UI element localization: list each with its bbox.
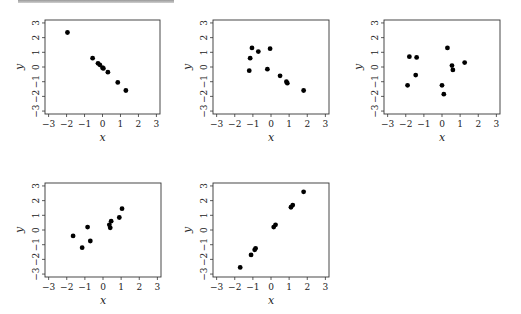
y-tick-label: −3 — [31, 104, 41, 118]
y-tick-label: 3 — [31, 20, 41, 26]
y-tick-label: 2 — [370, 35, 380, 41]
y-tick-label: 2 — [31, 198, 41, 204]
plot-frame — [213, 183, 329, 277]
x-tick-label: 2 — [304, 282, 310, 292]
y-tick-label: −2 — [199, 253, 209, 266]
y-tick-label: −3 — [199, 104, 209, 118]
y-tick-label: 1 — [199, 212, 209, 218]
x-tick-label: 1 — [118, 282, 124, 292]
x-tick-label: 0 — [100, 119, 106, 129]
y-tick-label: −2 — [31, 253, 41, 266]
data-point — [117, 215, 122, 220]
x-tick-label: 0 — [100, 282, 106, 292]
x-tick-label: 3 — [154, 119, 160, 129]
plot-frame — [384, 20, 500, 114]
x-tick-label: 1 — [286, 282, 292, 292]
x-tick-label: −1 — [78, 119, 91, 129]
scatter-panel-5: −3−2−10123−3−2−10123xy — [181, 183, 329, 307]
x-tick-label: 1 — [286, 119, 292, 129]
x-tick-label: 0 — [439, 119, 445, 129]
x-tick-label: −3 — [381, 119, 395, 129]
x-tick-label: −3 — [210, 119, 224, 129]
scatter-panel-2: −3−2−10123−3−2−10123xy — [181, 20, 329, 144]
y-tick-label: 0 — [199, 227, 209, 233]
data-point — [120, 206, 125, 211]
x-axis-label: x — [99, 131, 106, 144]
data-point — [268, 46, 273, 51]
x-tick-label: −2 — [60, 119, 73, 129]
data-point — [256, 49, 261, 54]
y-tick-label: 2 — [31, 35, 41, 41]
x-tick-label: 2 — [304, 119, 310, 129]
data-point — [278, 73, 283, 78]
y-tick-label: −1 — [199, 238, 209, 251]
y-tick-label: 1 — [199, 49, 209, 55]
y-tick-label: −1 — [199, 75, 209, 88]
data-point — [301, 189, 306, 194]
x-tick-label: −3 — [42, 282, 56, 292]
x-axis-label: x — [268, 131, 275, 144]
x-tick-label: −1 — [417, 119, 430, 129]
data-point — [413, 73, 418, 78]
y-tick-label: 3 — [370, 20, 380, 26]
x-tick-label: 3 — [494, 119, 500, 129]
y-tick-label: 0 — [199, 64, 209, 70]
scatter-panel-4: −3−2−10123−3−2−10123xy — [13, 183, 161, 307]
y-axis-label: y — [13, 226, 26, 234]
scatter-plot-grid: −3−2−10123−3−2−10123xy−3−2−10123−3−2−101… — [0, 0, 521, 314]
x-tick-label: 0 — [268, 119, 274, 129]
y-axis-label: y — [352, 63, 365, 71]
y-tick-label: 1 — [31, 49, 41, 55]
data-point — [71, 233, 76, 238]
data-point — [407, 54, 412, 59]
x-tick-label: 1 — [457, 119, 463, 129]
x-tick-label: −1 — [246, 119, 259, 129]
x-axis-label: x — [439, 131, 446, 144]
x-tick-label: −1 — [246, 282, 259, 292]
x-tick-label: −3 — [210, 282, 224, 292]
y-tick-label: −1 — [31, 238, 41, 251]
x-tick-label: 2 — [136, 282, 142, 292]
x-tick-label: −2 — [228, 282, 241, 292]
y-axis-label: y — [181, 226, 194, 234]
data-point — [290, 203, 295, 208]
y-tick-label: −2 — [199, 90, 209, 103]
x-tick-label: 0 — [268, 282, 274, 292]
data-point — [109, 219, 114, 224]
y-tick-label: −3 — [31, 267, 41, 281]
data-point — [285, 81, 290, 86]
data-point — [440, 83, 445, 88]
data-point — [65, 30, 70, 35]
y-axis-label: y — [13, 63, 26, 71]
data-point — [115, 80, 120, 85]
y-axis-label: y — [181, 63, 194, 71]
data-point — [247, 68, 252, 73]
y-tick-label: 1 — [370, 49, 380, 55]
data-point — [101, 66, 106, 71]
data-point — [248, 56, 253, 61]
y-tick-label: 0 — [370, 64, 380, 70]
data-point — [253, 246, 258, 251]
data-point — [80, 245, 85, 250]
y-tick-label: 3 — [199, 183, 209, 189]
y-tick-label: −2 — [370, 90, 380, 103]
x-tick-label: 3 — [155, 282, 161, 292]
data-point — [273, 222, 278, 227]
y-tick-label: 2 — [199, 35, 209, 41]
x-tick-label: 2 — [475, 119, 481, 129]
data-point — [450, 68, 455, 73]
data-point — [249, 253, 254, 258]
x-tick-label: −3 — [42, 119, 56, 129]
y-tick-label: 2 — [199, 198, 209, 204]
x-tick-label: 3 — [323, 119, 329, 129]
data-point — [108, 225, 113, 230]
data-point — [301, 88, 306, 93]
plot-frame — [213, 20, 329, 114]
plot-frame — [45, 183, 161, 277]
x-axis-label: x — [100, 294, 107, 307]
y-tick-label: 0 — [31, 227, 41, 233]
data-point — [250, 46, 255, 51]
y-tick-label: −2 — [31, 90, 41, 103]
scatter-panel-3: −3−2−10123−3−2−10123xy — [352, 20, 500, 144]
y-tick-label: −1 — [31, 75, 41, 88]
